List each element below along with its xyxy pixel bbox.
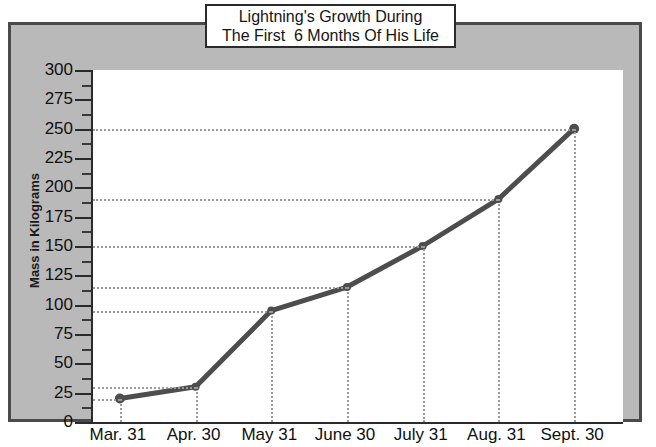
y-axis-minor-tick [82, 349, 91, 351]
gridline-vertical [574, 129, 576, 422]
plot-area [91, 70, 623, 424]
y-axis-major-tick [75, 334, 91, 336]
y-axis-tick-label: 75 [25, 324, 73, 344]
chart-title-box: Lightning's Growth During The First 6 Mo… [205, 4, 456, 48]
y-axis-major-tick [75, 246, 91, 248]
gridline-horizontal [93, 399, 120, 401]
gridline-horizontal [93, 129, 574, 131]
y-axis-tick-label: 50 [25, 353, 73, 373]
gridline-vertical [120, 399, 122, 422]
gridline-vertical [423, 246, 425, 422]
y-axis-major-tick [75, 305, 91, 307]
y-axis-ruler [75, 70, 91, 422]
y-axis-major-tick [75, 129, 91, 131]
y-axis-minor-tick [82, 378, 91, 380]
x-axis-tick-label: Sept. 30 [517, 425, 627, 445]
y-axis-minor-tick [82, 85, 91, 87]
y-axis-minor-tick [82, 173, 91, 175]
gridline-horizontal [93, 199, 498, 201]
y-axis-major-tick [75, 217, 91, 219]
gridline-horizontal [93, 311, 271, 313]
y-axis-minor-tick [82, 290, 91, 292]
y-axis-tick-label: 225 [25, 148, 73, 168]
y-axis-major-tick [75, 158, 91, 160]
y-axis-tick-label: 25 [25, 383, 73, 403]
gridline-vertical [498, 199, 500, 422]
gridline-vertical [196, 387, 198, 422]
y-axis-minor-tick [82, 319, 91, 321]
y-axis-tick-label: 200 [25, 177, 73, 197]
y-axis-tick-label: 300 [25, 60, 73, 80]
y-axis-major-tick [75, 70, 91, 72]
gridline-horizontal [93, 246, 423, 248]
gridline-vertical [271, 311, 273, 422]
y-axis-major-tick [75, 275, 91, 277]
y-axis-minor-tick [82, 143, 91, 145]
chart-panel: Mass in Kilograms 0255075100125150175200… [8, 22, 642, 422]
y-axis-tick-label: 250 [25, 119, 73, 139]
y-axis-tick-label: 175 [25, 207, 73, 227]
y-axis-major-tick [75, 422, 91, 424]
y-axis-tick-label: 100 [25, 295, 73, 315]
y-axis-major-tick [75, 187, 91, 189]
y-axis-tick-label: 150 [25, 236, 73, 256]
gridline-horizontal [93, 287, 347, 289]
y-axis-major-tick [75, 363, 91, 365]
y-axis-minor-tick [82, 261, 91, 263]
gridline-vertical [347, 287, 349, 422]
y-axis-minor-tick [82, 202, 91, 204]
y-axis-minor-tick [82, 407, 91, 409]
gridline-horizontal [93, 387, 196, 389]
chart-title-line-1: Lightning's Growth During [239, 7, 423, 26]
y-axis-tick-labels: 0255075100125150175200225250275300 [25, 48, 73, 400]
y-axis-tick-label: 125 [25, 265, 73, 285]
y-axis-major-tick [75, 99, 91, 101]
y-axis-tick-label: 275 [25, 89, 73, 109]
y-axis-minor-tick [82, 231, 91, 233]
y-axis-major-tick [75, 393, 91, 395]
plot-inner [93, 70, 623, 422]
y-axis-minor-tick [82, 114, 91, 116]
chart-title-line-2: The First 6 Months Of His Life [222, 26, 439, 45]
x-axis-tick-labels: Mar. 31Apr. 30May 31June 30July 31Aug. 3… [19, 425, 653, 447]
